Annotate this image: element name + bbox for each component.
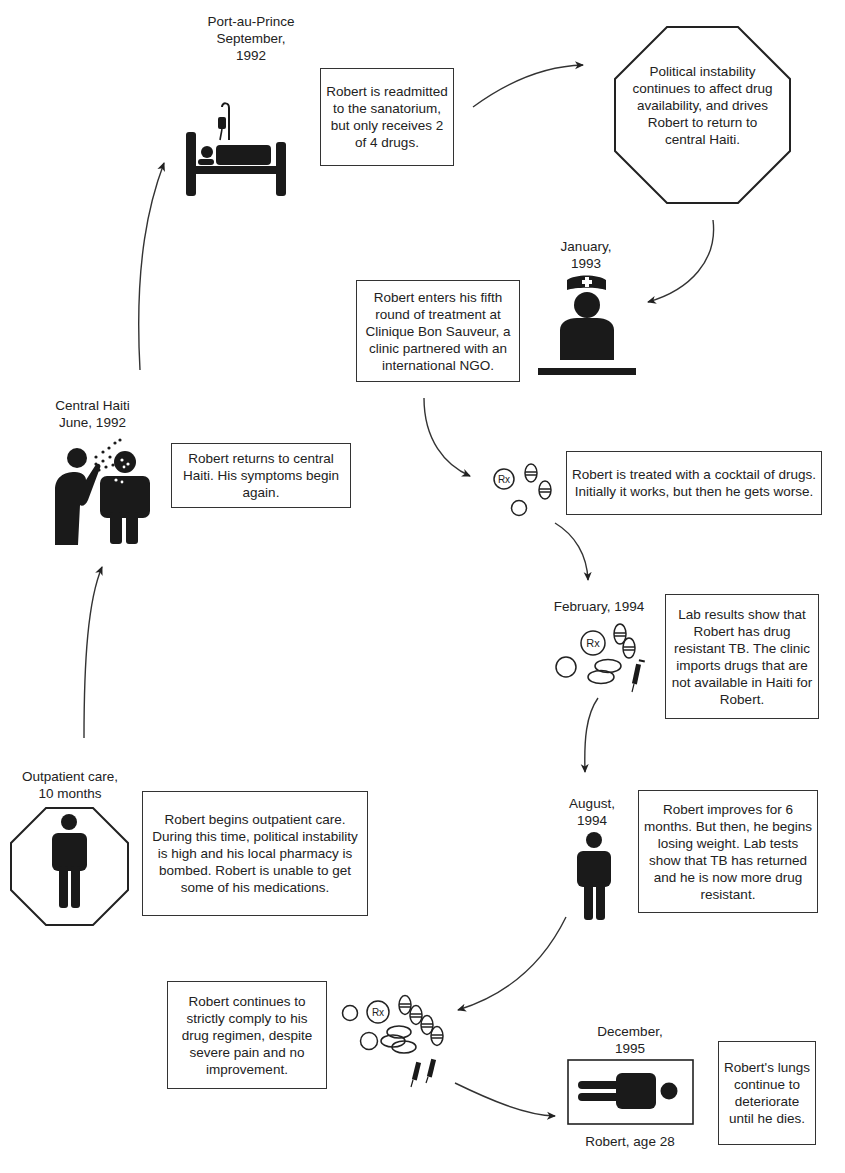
- arrow-february-to-august: [585, 698, 598, 772]
- box-text: Robert's lungs continue to deteriorate u…: [723, 1059, 811, 1127]
- port-au-prince-label: Port-au-Prince September, 1992: [196, 13, 306, 64]
- diagram-arrows-layer: Rx Rx Rx: [0, 0, 845, 1173]
- box-text: Robert is treated with a cocktail of dru…: [571, 466, 817, 500]
- box-text: Robert begins outpatient care. During th…: [147, 811, 363, 896]
- many-pills-syringes-icon: [343, 996, 444, 1054]
- nurse-icon: [538, 276, 636, 376]
- january-1993-label: January, 1993: [546, 238, 626, 272]
- arrow-central-haiti-to-port-au-prince: [139, 163, 164, 370]
- stage-label: Port-au-Prince September, 1992: [207, 14, 294, 63]
- death-box: Robert's lungs continue to deteriorate u…: [718, 1041, 816, 1145]
- syringe-icon-february: [632, 659, 645, 692]
- box-text: Lab results show that Robert has drug re…: [670, 606, 814, 708]
- box-text: Robert is readmitted to the sanatorium, …: [325, 83, 449, 151]
- pills-syringe-icon-february: [556, 624, 635, 684]
- box-text: Robert enters his fifth round of treatme…: [361, 289, 515, 374]
- sanatorium-box: Robert is readmitted to the sanatorium, …: [320, 68, 454, 166]
- stage-label: December, 1995: [597, 1024, 662, 1056]
- caption-text: Robert, age 28: [585, 1134, 674, 1149]
- central-haiti-box: Robert returns to central Haiti. His sym…: [171, 443, 351, 508]
- regimen-box: Robert continues to strictly comply to h…: [167, 981, 327, 1089]
- stage-label: February, 1994: [554, 599, 645, 614]
- box-text: Robert continues to strictly comply to h…: [172, 993, 322, 1078]
- stage-label: Outpatient care, 10 months: [22, 769, 118, 801]
- hospital-bed-icon: [186, 103, 286, 196]
- rx-label-cocktail: Rx: [498, 474, 510, 485]
- arrow-regimen-to-december: [455, 1083, 555, 1116]
- stage-label: Central Haiti June, 1992: [55, 398, 129, 430]
- central-haiti-label: Central Haiti June, 1992: [40, 397, 145, 431]
- august-box: Robert improves for 6 months. But then, …: [638, 790, 818, 913]
- arrow-instability-to-january: [648, 220, 714, 302]
- outpatient-label: Outpatient care, 10 months: [5, 768, 135, 802]
- box-text: Robert improves for 6 months. But then, …: [643, 801, 813, 903]
- pills-rx-icon-cocktail: [494, 464, 551, 516]
- robert-age-caption: Robert, age 28: [570, 1133, 690, 1150]
- arrow-august-to-regimen: [458, 917, 566, 1010]
- rx-label-regimen: Rx: [372, 1007, 384, 1018]
- box-text: Robert returns to central Haiti. His sym…: [176, 450, 346, 501]
- clinic-box: Robert enters his fifth round of treatme…: [356, 280, 520, 382]
- february-box: Lab results show that Robert has drug re…: [665, 594, 819, 719]
- stage-label: August, 1994: [569, 796, 615, 828]
- arrow-sanatorium-to-instability: [473, 65, 583, 107]
- stage-label: January, 1993: [561, 239, 612, 271]
- syringes-icon-regimen: [411, 1059, 436, 1087]
- rx-label-february: Rx: [586, 637, 600, 649]
- cocktail-box: Robert is treated with a cocktail of dru…: [566, 451, 822, 515]
- outpatient-box: Robert begins outpatient care. During th…: [142, 791, 368, 916]
- arrow-clinic-to-cocktail: [424, 398, 470, 476]
- cough-spread-icon: [55, 438, 150, 545]
- december-1995-label: December, 1995: [580, 1023, 680, 1057]
- arrow-outpatient-to-central-haiti: [84, 567, 102, 738]
- person-icon-august: [577, 832, 611, 920]
- box-text: Political instability continues to affec…: [632, 64, 772, 147]
- august-1994-label: August, 1994: [557, 795, 627, 829]
- february-1994-label: February, 1994: [543, 598, 655, 615]
- instability-octagon-text: Political instability continues to affec…: [630, 63, 775, 148]
- arrow-cocktail-to-february: [555, 523, 588, 580]
